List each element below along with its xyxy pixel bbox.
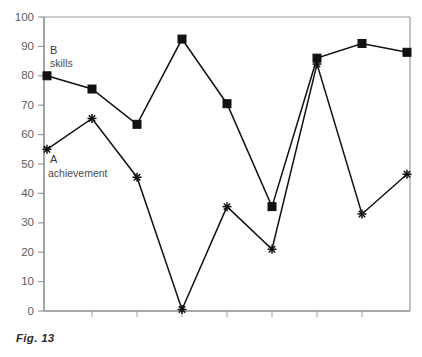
data-point-marker-star [223, 202, 232, 211]
y-tick-label: 60 [21, 128, 34, 140]
data-point-marker-square [133, 120, 141, 128]
figure-container: 0102030405060708090100 B skills A achiev… [0, 0, 422, 357]
data-point-marker-square [268, 203, 276, 211]
y-tick-label: 80 [21, 69, 34, 81]
y-tick-label: 40 [21, 187, 34, 199]
y-tick-label: 90 [21, 40, 34, 52]
y-tick-label: 100 [15, 11, 34, 23]
data-point-marker-star [313, 60, 322, 69]
data-point-marker-square [43, 72, 51, 80]
data-point-marker-square [403, 48, 411, 56]
data-point-marker-star [358, 209, 367, 218]
data-point-marker-star [268, 245, 277, 254]
y-tick-label: 20 [21, 246, 34, 258]
data-point-marker-square [358, 39, 366, 47]
data-point-marker-square [178, 35, 186, 43]
y-tick-label: 0 [28, 305, 34, 317]
y-tick-label: 10 [21, 275, 34, 287]
figure-caption: Fig. 13 [16, 332, 55, 344]
series-a-sublabel: achievement [48, 167, 108, 179]
series-b-sublabel: skills [50, 57, 73, 69]
y-tick-label: 50 [21, 158, 34, 170]
x-axis-ticks [92, 311, 362, 317]
data-point-marker-star [88, 114, 97, 123]
series-a [43, 60, 412, 314]
line-chart: 0102030405060708090100 B skills A achiev… [0, 0, 422, 357]
series-a-label: A [50, 153, 58, 165]
data-point-marker-square [88, 85, 96, 93]
data-point-marker-star [403, 170, 412, 179]
data-point-marker-square [223, 100, 231, 108]
y-tick-label: 70 [21, 99, 34, 111]
series-b-label: B [50, 44, 57, 56]
series-b [43, 35, 411, 211]
y-axis-ticks: 0102030405060708090100 [15, 11, 44, 317]
y-tick-label: 30 [21, 216, 34, 228]
data-point-marker-star [133, 173, 142, 182]
data-point-marker-star [178, 305, 187, 314]
